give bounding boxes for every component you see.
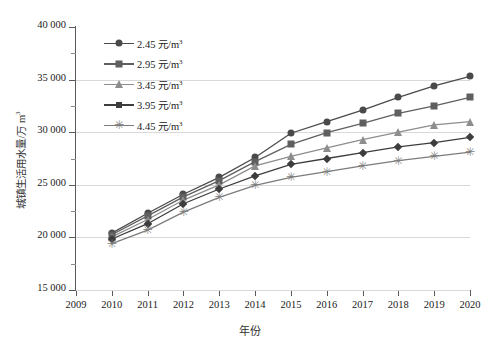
- y-tick: [69, 290, 76, 291]
- x-tick: [183, 291, 184, 296]
- gridline: [76, 290, 470, 291]
- legend-marker-square-icon: [116, 60, 123, 67]
- data-point-circle: [467, 73, 474, 80]
- legend-label: 3.45 元/m3: [134, 77, 183, 92]
- x-tick: [434, 291, 435, 296]
- y-axis-title-superscript: 3: [14, 111, 22, 115]
- x-tick: [148, 291, 149, 296]
- data-point-square: [323, 129, 330, 136]
- data-point-circle: [287, 130, 294, 137]
- y-tick: [69, 27, 76, 28]
- data-point-star: ✳: [465, 149, 475, 156]
- data-point-star: ✳: [429, 153, 439, 160]
- x-tick: [255, 291, 256, 296]
- legend-marker-circle-icon: [116, 40, 123, 47]
- x-tick-label: 2020: [445, 299, 495, 310]
- data-point-star: ✳: [322, 168, 332, 175]
- legend-item-2[interactable]: 2.95 元/m3: [104, 54, 234, 75]
- data-point-star: ✳: [358, 162, 368, 169]
- data-point-star: ✳: [250, 182, 260, 189]
- y-tick-label: 15 000: [6, 282, 66, 293]
- y-tick-label: 25 000: [6, 177, 66, 188]
- line-chart: 城镇生活用水量/万 m3 年份 40 00035 00030 00025 000…: [0, 0, 500, 348]
- x-axis-title: 年份: [0, 322, 500, 338]
- legend-swatch: [104, 36, 134, 50]
- y-tick-label: 35 000: [6, 72, 66, 83]
- y-tick: [69, 237, 76, 238]
- legend-swatch: [104, 98, 134, 112]
- y-tick: [69, 132, 76, 133]
- legend-item-5[interactable]: ✳4.45 元/m3: [104, 115, 234, 136]
- data-point-triangle: [251, 162, 259, 170]
- legend-swatch: ✳: [104, 118, 134, 132]
- legend-label: 2.95 元/m3: [134, 56, 183, 71]
- data-point-circle: [359, 107, 366, 114]
- y-tick-label: 30 000: [6, 124, 66, 135]
- data-point-square: [395, 110, 402, 117]
- data-point-star: ✳: [393, 157, 403, 164]
- legend-label: 2.45 元/m3: [134, 36, 183, 51]
- x-tick: [291, 291, 292, 296]
- legend: 2.45 元/m32.95 元/m33.45 元/m33.95 元/m3✳4.4…: [104, 33, 234, 136]
- x-tick: [470, 291, 471, 296]
- data-point-square: [431, 102, 438, 109]
- x-tick: [76, 291, 77, 296]
- data-point-circle: [395, 94, 402, 101]
- legend-marker-star-icon: ✳: [114, 122, 124, 129]
- x-tick: [363, 291, 364, 296]
- data-point-star: ✳: [178, 209, 188, 216]
- data-point-circle: [431, 82, 438, 89]
- legend-marker-triangle-icon: [115, 80, 123, 88]
- legend-item-1[interactable]: 2.45 元/m3: [104, 33, 234, 54]
- data-point-star: ✳: [214, 194, 224, 201]
- data-point-triangle: [359, 136, 367, 144]
- x-tick: [398, 291, 399, 296]
- data-point-triangle: [323, 144, 331, 152]
- data-point-triangle: [430, 121, 438, 129]
- legend-swatch: [104, 57, 134, 71]
- y-tick: [69, 80, 76, 81]
- data-point-square: [467, 94, 474, 101]
- data-point-square: [287, 141, 294, 148]
- data-point-star: ✳: [143, 227, 153, 234]
- x-tick: [327, 291, 328, 296]
- x-tick: [112, 291, 113, 296]
- legend-item-3[interactable]: 3.45 元/m3: [104, 74, 234, 95]
- y-tick: [69, 185, 76, 186]
- legend-item-4[interactable]: 3.95 元/m3: [104, 95, 234, 116]
- legend-swatch: [104, 77, 134, 91]
- y-tick-label: 40 000: [6, 19, 66, 30]
- data-point-square: [359, 120, 366, 127]
- legend-marker-diamond-icon: [116, 102, 122, 108]
- data-point-star: ✳: [107, 240, 117, 247]
- data-point-triangle: [394, 128, 402, 136]
- data-point-star: ✳: [286, 174, 296, 181]
- legend-label: 3.95 元/m3: [134, 97, 183, 112]
- data-point-circle: [323, 118, 330, 125]
- legend-label: 4.45 元/m3: [134, 118, 183, 133]
- y-tick-label: 20 000: [6, 229, 66, 240]
- x-tick: [219, 291, 220, 296]
- y-axis-title: 城镇生活用水量/万 m3: [9, 20, 27, 300]
- data-point-triangle: [466, 118, 474, 126]
